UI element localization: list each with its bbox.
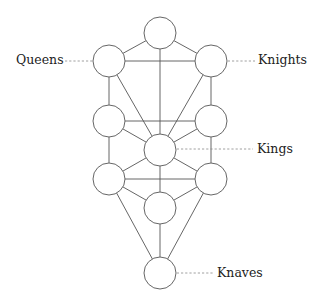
label-queens: Queens bbox=[16, 52, 64, 67]
node-bottom-middle bbox=[144, 192, 176, 224]
tree-graph: QueensKnightsKingsKnaves bbox=[0, 0, 318, 304]
label-knights: Knights bbox=[258, 52, 307, 67]
node-upper-left bbox=[93, 45, 125, 77]
label-knaves: Knaves bbox=[217, 265, 263, 280]
node-lower-left bbox=[93, 163, 125, 195]
node-bottom bbox=[144, 257, 176, 289]
node-center bbox=[144, 134, 176, 166]
node-upper-right bbox=[195, 45, 227, 77]
label-kings: Kings bbox=[257, 141, 293, 156]
node-lower-right bbox=[195, 163, 227, 195]
node-middle-left bbox=[93, 105, 125, 137]
diagram-canvas: QueensKnightsKingsKnaves bbox=[0, 0, 318, 304]
node-top bbox=[144, 17, 176, 49]
node-middle-right bbox=[195, 105, 227, 137]
